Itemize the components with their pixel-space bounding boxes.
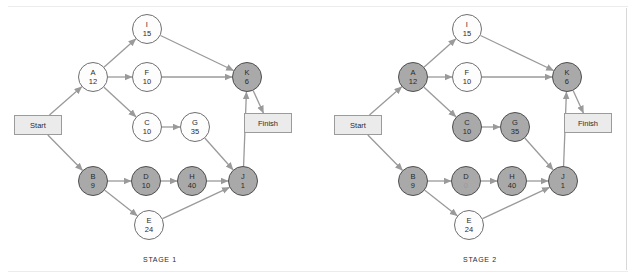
edge-b-to-e [105, 190, 137, 215]
node-duration: 10 [143, 128, 152, 136]
finish-box: Finish [564, 113, 612, 133]
node-j: J1 [548, 166, 578, 196]
node-duration: 12 [89, 78, 98, 86]
node-duration: 35 [511, 128, 520, 136]
node-b: B9 [398, 166, 428, 196]
stage-1-caption: STAGE 1 [0, 256, 320, 263]
node-duration: 6 [565, 78, 569, 86]
edge-i-to-k [481, 35, 554, 70]
node-duration: 6 [245, 78, 249, 86]
node-label: J [561, 173, 565, 181]
node-f: F10 [132, 62, 162, 92]
edge-start-to-a [369, 87, 401, 115]
node-g: G35 [180, 112, 210, 142]
node-duration: 35 [191, 128, 200, 136]
node-label: C [144, 119, 150, 127]
node-duration: 24 [465, 226, 474, 234]
finish-box-label: Finish [578, 119, 598, 128]
node-label: C [464, 119, 470, 127]
node-label: K [564, 69, 569, 77]
node-label: I [146, 21, 148, 29]
edge-k-to-finish [573, 91, 583, 113]
node-j: J1 [228, 166, 258, 196]
node-duration: 9 [91, 182, 95, 190]
node-label: B [90, 173, 95, 181]
node-d: D0 [451, 166, 481, 196]
node-c: C10 [452, 112, 482, 142]
stage-2-caption: STAGE 2 [320, 256, 640, 263]
node-duration: 10 [143, 78, 152, 86]
edge-a-to-i [104, 39, 136, 67]
edge-g-to-j [525, 138, 553, 170]
node-label: F [145, 69, 150, 77]
start-box-label: Start [350, 121, 366, 130]
node-h: H40 [177, 166, 207, 196]
node-label: H [509, 173, 515, 181]
node-d: D10 [131, 166, 161, 196]
node-g: G35 [500, 112, 530, 142]
node-label: A [410, 69, 415, 77]
node-label: F [465, 69, 470, 77]
figure-canvas: I15A12F10K6C10G35B9D10H40J1E24StartFinis… [0, 0, 640, 277]
node-duration: 24 [145, 226, 154, 234]
edge-k-to-finish [253, 91, 263, 113]
node-duration: 0 [464, 182, 468, 190]
edge-b-to-e [425, 190, 457, 215]
node-b: B9 [78, 166, 108, 196]
node-label: D [143, 173, 149, 181]
node-label: E [146, 217, 151, 225]
edge-a-to-c [104, 87, 136, 117]
edge-g-to-j [205, 138, 233, 170]
stage-2-diagram: I15A12F10K6C10G35B9D0H40J1E24StartFinish… [320, 0, 640, 277]
node-duration: 15 [463, 30, 472, 38]
node-duration: 40 [508, 182, 517, 190]
node-i: I15 [452, 14, 482, 44]
finish-box: Finish [244, 113, 292, 133]
edge-i-to-k [161, 35, 234, 70]
edge-a-to-c [424, 87, 456, 117]
stage-2-edges [320, 0, 640, 277]
node-duration: 9 [411, 182, 415, 190]
node-label: H [189, 173, 195, 181]
node-e: E24 [134, 210, 164, 240]
node-label: D [463, 173, 469, 181]
node-label: I [466, 21, 468, 29]
node-duration: 15 [143, 30, 152, 38]
start-box-label: Start [30, 121, 46, 130]
node-a: A12 [78, 62, 108, 92]
node-k: K6 [232, 62, 262, 92]
start-box: Start [14, 115, 62, 135]
start-box: Start [334, 115, 382, 135]
node-f: F10 [452, 62, 482, 92]
edge-start-to-b [368, 135, 403, 170]
node-duration: 10 [142, 182, 151, 190]
node-c: C10 [132, 112, 162, 142]
finish-box-label: Finish [258, 119, 278, 128]
node-a: A12 [398, 62, 428, 92]
node-label: A [90, 69, 95, 77]
node-label: G [512, 119, 518, 127]
node-label: K [244, 69, 249, 77]
edge-start-to-a [49, 87, 81, 115]
node-label: E [466, 217, 471, 225]
node-i: I15 [132, 14, 162, 44]
node-label: J [241, 173, 245, 181]
node-label: B [410, 173, 415, 181]
node-duration: 1 [561, 182, 565, 190]
node-duration: 10 [463, 128, 472, 136]
node-duration: 1 [241, 182, 245, 190]
node-duration: 12 [409, 78, 418, 86]
node-e: E24 [454, 210, 484, 240]
stage-1-edges [0, 0, 320, 277]
node-h: H40 [497, 166, 527, 196]
edge-start-to-b [48, 135, 83, 170]
stage-1-diagram: I15A12F10K6C10G35B9D10H40J1E24StartFinis… [0, 0, 320, 277]
edge-a-to-i [424, 39, 456, 67]
node-duration: 10 [463, 78, 472, 86]
node-k: K6 [552, 62, 582, 92]
node-duration: 40 [188, 182, 197, 190]
node-label: G [192, 119, 198, 127]
